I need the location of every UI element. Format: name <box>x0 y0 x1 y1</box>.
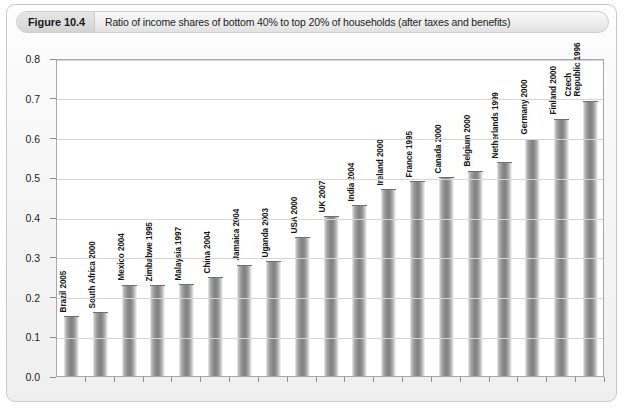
x-axis-tick-mark <box>287 377 288 382</box>
gridline <box>57 338 603 339</box>
x-axis-tick-mark <box>143 377 144 382</box>
y-axis-tick-label: 0.2 <box>25 292 40 304</box>
bar[interactable] <box>583 101 598 376</box>
bar[interactable] <box>266 261 281 376</box>
gridline <box>57 60 603 61</box>
bar[interactable] <box>64 316 79 376</box>
bar-category-label: USA 2000 <box>289 196 298 233</box>
gridline <box>57 258 603 259</box>
bar-category-label: China 2004 <box>203 231 212 273</box>
y-axis-tick-label: 0.3 <box>25 252 40 264</box>
bar-category-label: CzechRepublic 1996 <box>563 43 581 97</box>
bar-category-label: Brazil 2005 <box>58 270 67 312</box>
y-axis-labels: 0.00.10.20.30.40.50.60.70.8 <box>0 59 50 377</box>
bar-category-label: Germany 2000 <box>520 80 529 135</box>
y-axis-tick-label: 0.1 <box>25 331 40 343</box>
bar[interactable] <box>93 312 108 376</box>
y-axis-tick-label: 0.8 <box>25 53 40 65</box>
bar-category-label: Jamaica 2004 <box>231 209 240 261</box>
gridline <box>57 298 603 299</box>
bar-category-label: Zimbabwe 1995 <box>145 222 154 281</box>
x-axis-tick-mark <box>604 377 605 382</box>
figure-caption-bar: Figure 10.4 Ratio of income shares of bo… <box>16 11 609 33</box>
x-axis-tick-mark <box>489 377 490 382</box>
y-axis-tick-label: 0.5 <box>25 172 40 184</box>
x-axis-tick-mark <box>460 377 461 382</box>
x-axis-tick-mark <box>344 377 345 382</box>
y-axis-tick-label: 0.6 <box>25 133 40 145</box>
bar-category-label: Mexico 2004 <box>116 234 125 281</box>
x-axis-tick-mark <box>431 377 432 382</box>
x-axis-tick-mark <box>316 377 317 382</box>
x-axis-tick-mark <box>517 377 518 382</box>
y-axis-tick-label: 0.4 <box>25 212 40 224</box>
bar-category-label: Canada 2000 <box>433 124 442 173</box>
y-axis-tick-label: 0.7 <box>25 93 40 105</box>
x-axis-tick-mark <box>200 377 201 382</box>
x-axis-tick-mark <box>229 377 230 382</box>
x-axis-tick-mark <box>546 377 547 382</box>
bar-category-label: Uganda 2003 <box>260 208 269 257</box>
bar[interactable] <box>324 216 339 376</box>
bar[interactable] <box>439 177 454 376</box>
bar-category-label: Netherlands 1999 <box>491 92 500 158</box>
bar[interactable] <box>352 205 367 376</box>
gridline <box>57 219 603 220</box>
bar[interactable] <box>497 162 512 376</box>
x-axis-tick-mark <box>373 377 374 382</box>
x-axis-tick-mark <box>114 377 115 382</box>
x-axis-tick-mark <box>575 377 576 382</box>
y-axis-tick-label: 0.0 <box>25 371 40 383</box>
gridline <box>57 179 603 180</box>
bar-category-label: India 2004 <box>347 163 356 202</box>
x-axis-tick-mark <box>85 377 86 382</box>
bar[interactable] <box>208 277 223 376</box>
bar[interactable] <box>381 189 396 376</box>
bar-category-label: Belgium 2000 <box>462 115 471 167</box>
figure-number-tag: Figure 10.4 <box>17 12 95 32</box>
x-axis-tick-mark <box>258 377 259 382</box>
bar-category-label: Malaysia 1997 <box>174 227 183 280</box>
figure-caption-text: Ratio of income shares of bottom 40% to … <box>95 16 608 28</box>
bar[interactable] <box>468 171 483 376</box>
bar[interactable] <box>237 265 252 377</box>
x-axis-tick-mark <box>402 377 403 382</box>
bar-category-label: UK 2007 <box>318 181 327 213</box>
bar[interactable] <box>410 181 425 376</box>
gridline <box>57 99 603 100</box>
bar[interactable] <box>525 139 540 377</box>
plot-area: Brazil 2005South Africa 2000Mexico 2004Z… <box>56 59 604 377</box>
x-axis-tick-marks <box>56 377 604 383</box>
x-axis-tick-mark <box>171 377 172 382</box>
bar-category-label: Finland 2000 <box>549 66 558 114</box>
gridline <box>57 139 603 140</box>
